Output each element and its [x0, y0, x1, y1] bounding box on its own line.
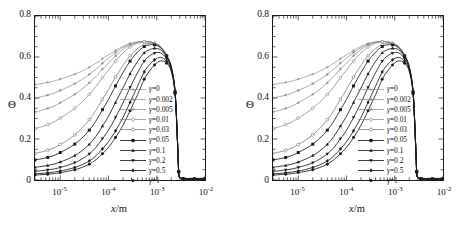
legend-marker-icon	[358, 105, 384, 114]
x-tick-label: 10-4	[101, 185, 115, 197]
legend-label: γ=0.002	[149, 96, 173, 103]
legend-label: γ=0.2	[149, 157, 165, 164]
legend-label: γ=0.05	[149, 136, 169, 143]
y-tick-label: 0.2	[19, 134, 31, 144]
legend-item: γ=0.2	[358, 155, 411, 165]
y-tick-label: 0	[264, 175, 269, 185]
legend-item: γ=0.005	[120, 104, 173, 114]
legend-marker-icon	[358, 156, 384, 165]
legend-marker-icon	[120, 156, 146, 165]
legend-item: γ=0.002	[358, 94, 411, 104]
legend-marker-icon	[120, 85, 146, 94]
legend-label: γ=0.2	[387, 157, 403, 164]
legend-label: γ=0.05	[387, 136, 407, 143]
legend-label: γ=0.5	[149, 167, 165, 174]
x-axis-label-unit-right: m	[357, 203, 365, 214]
legend-item: γ=1	[358, 176, 411, 186]
y-tick-label: 0.8	[257, 9, 269, 19]
x-axis-label-unit-left: m	[119, 203, 127, 214]
legend-item: γ=0.01	[120, 115, 173, 125]
x-axis-label-right: x/m	[238, 203, 476, 214]
legend-label: γ=0.1	[387, 147, 403, 154]
legend-item: γ=0.2	[120, 155, 173, 165]
legend-marker-icon	[358, 95, 384, 104]
legend-item: γ=0.5	[120, 166, 173, 176]
legend-label: γ=0.01	[387, 116, 407, 123]
legend-marker-icon	[358, 146, 384, 155]
legend-marker-icon	[120, 115, 146, 124]
y-tick-labels-left: 00.20.40.60.8	[0, 0, 31, 229]
legend-item: γ=0.1	[358, 145, 411, 155]
y-tick-label: 0.2	[257, 134, 269, 144]
legend-label: γ=0	[149, 85, 160, 92]
legend-label: γ=1	[149, 177, 160, 184]
legend-marker-icon	[358, 136, 384, 145]
legend-item: γ=0.03	[120, 125, 173, 135]
legend-left: γ=0γ=0.002γ=0.005γ=0.01γ=0.03γ=0.05γ=0.1…	[120, 84, 173, 186]
legend-right: γ=0γ=0.002γ=0.005γ=0.01γ=0.03γ=0.05γ=0.1…	[358, 84, 411, 186]
legend-label: γ=0.002	[387, 96, 411, 103]
legend-label: γ=0.03	[149, 126, 169, 133]
legend-label: γ=0	[387, 85, 398, 92]
legend-label: γ=0.005	[387, 106, 411, 113]
legend-label: γ=0.01	[149, 116, 169, 123]
legend-item: γ=0	[120, 84, 173, 94]
x-tick-label: 10-3	[150, 185, 164, 197]
legend-marker-icon	[120, 176, 146, 185]
legend-item: γ=1	[120, 176, 173, 186]
legend-marker-icon	[120, 125, 146, 134]
y-tick-label: 0.6	[19, 51, 31, 61]
legend-item: γ=0.5	[358, 166, 411, 176]
legend-marker-icon	[358, 166, 384, 175]
legend-marker-icon	[120, 136, 146, 145]
panel-left: 00.20.40.60.8 Θ x/m γ=0γ=0.002γ=0.005γ=0…	[0, 0, 238, 229]
legend-label: γ=0.03	[387, 126, 407, 133]
x-tick-label: 10-2	[437, 185, 451, 197]
legend-item: γ=0.03	[358, 125, 411, 135]
y-axis-label-right: Θ	[246, 98, 254, 110]
x-tick-label: 10-5	[290, 185, 304, 197]
y-tick-labels-right: 00.20.40.60.8	[238, 0, 269, 229]
x-axis-label-left: x/m	[0, 203, 238, 214]
legend-label: γ=0.005	[149, 106, 173, 113]
legend-item: γ=0.05	[358, 135, 411, 145]
legend-item: γ=0.01	[358, 115, 411, 125]
figure-two-panel: 00.20.40.60.8 Θ x/m γ=0γ=0.002γ=0.005γ=0…	[0, 0, 476, 229]
x-tick-label: 10-4	[339, 185, 353, 197]
legend-label: γ=0.5	[387, 167, 403, 174]
legend-item: γ=0	[358, 84, 411, 94]
legend-marker-icon	[358, 85, 384, 94]
legend-marker-icon	[358, 115, 384, 124]
y-axis-label-left: Θ	[8, 98, 16, 110]
legend-marker-icon	[120, 146, 146, 155]
y-tick-label: 0	[26, 175, 31, 185]
x-tick-label: 10-2	[199, 185, 213, 197]
y-tick-label: 0.8	[19, 9, 31, 19]
x-tick-label: 10-3	[388, 185, 402, 197]
legend-label: γ=0.1	[149, 147, 165, 154]
y-tick-label: 0.6	[257, 51, 269, 61]
y-tick-label: 0.4	[19, 92, 31, 102]
legend-item: γ=0.002	[120, 94, 173, 104]
y-tick-label: 0.4	[257, 92, 269, 102]
legend-item: γ=0.005	[358, 104, 411, 114]
x-tick-label: 10-5	[52, 185, 66, 197]
legend-item: γ=0.05	[120, 135, 173, 145]
legend-marker-icon	[120, 105, 146, 114]
panel-right: 00.20.40.60.8 Θ x/m γ=0γ=0.002γ=0.005γ=0…	[238, 0, 476, 229]
legend-item: γ=0.1	[120, 145, 173, 155]
legend-marker-icon	[358, 125, 384, 134]
legend-marker-icon	[358, 176, 384, 185]
legend-marker-icon	[120, 95, 146, 104]
legend-marker-icon	[120, 166, 146, 175]
legend-label: γ=1	[387, 177, 398, 184]
